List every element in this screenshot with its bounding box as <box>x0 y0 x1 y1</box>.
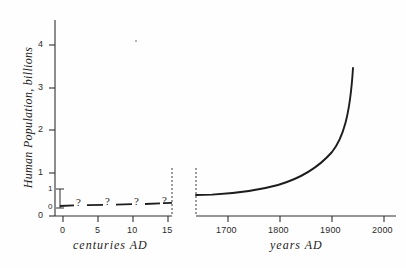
y-axis-title: Human Population, billions <box>21 43 36 193</box>
antiquity-line-segment-1 <box>60 205 74 206</box>
population-growth-figure: 4 3 2 1 0 Human Population, billions 1 0… <box>0 0 406 268</box>
antiquity-line-segment-4 <box>145 203 160 204</box>
scan-artifact-speck <box>135 40 137 42</box>
modern-population-curve <box>196 68 353 195</box>
chart-page: 4 3 2 1 0 Human Population, billions 1 0… <box>0 0 406 268</box>
chart-canvas <box>0 0 406 268</box>
